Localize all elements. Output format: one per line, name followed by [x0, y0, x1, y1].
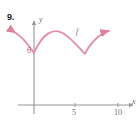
graph-canvas — [0, 0, 140, 125]
y-intercept-label: 6 — [27, 46, 31, 55]
y-axis-label: y — [39, 15, 43, 24]
curve-branch-left — [16, 33, 35, 53]
curve-branch-right — [85, 31, 109, 54]
x-tick-label-5: 5 — [72, 108, 76, 117]
x-axis-label: x — [132, 97, 136, 106]
figure-container: 9. y x 5 10 6 f — [0, 0, 140, 125]
curve-function-label: f — [76, 27, 78, 36]
problem-number: 9. — [7, 12, 14, 22]
x-tick-label-10: 10 — [114, 108, 122, 117]
